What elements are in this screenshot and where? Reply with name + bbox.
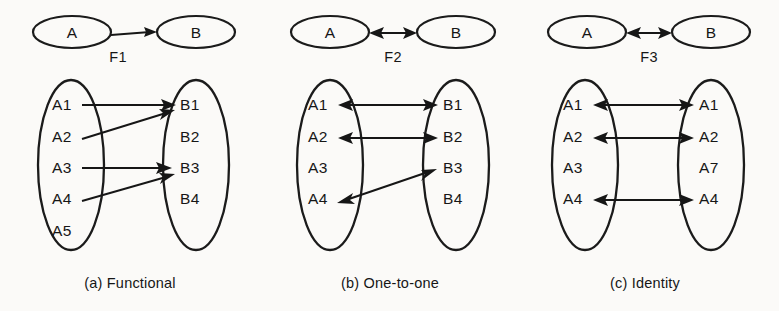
source-set-oval-label: A bbox=[582, 24, 593, 41]
source-element-a3: A3 bbox=[52, 159, 72, 176]
source-element-a1: A1 bbox=[52, 96, 72, 113]
function-label: F1 bbox=[109, 49, 127, 65]
target-element-b4: B4 bbox=[180, 190, 200, 207]
target-element-b3: B3 bbox=[180, 159, 200, 176]
target-element-b4: B4 bbox=[443, 190, 463, 207]
target-element-3: A7 bbox=[699, 159, 719, 176]
source-set-oval-label: A bbox=[325, 24, 336, 41]
target-element-b1: B1 bbox=[443, 96, 463, 113]
source-element-a4: A4 bbox=[308, 190, 328, 207]
source-element-a4: A4 bbox=[52, 190, 72, 207]
function-label: F3 bbox=[640, 49, 658, 65]
source-element-a4: A4 bbox=[563, 190, 583, 207]
target-set-oval-label: B bbox=[451, 24, 461, 41]
panel-caption: (a) Functional bbox=[84, 275, 175, 291]
target-element-b2: B2 bbox=[443, 128, 463, 145]
source-element-a1: A1 bbox=[563, 96, 583, 113]
target-element-b3: B3 bbox=[443, 159, 463, 176]
function-arrow-line bbox=[111, 32, 150, 35]
target-element-4: A4 bbox=[699, 190, 719, 207]
panel-functional: A B F1 A1 A2 A3 A4 A5 B1 B2 B3 B4 bbox=[0, 0, 260, 311]
function-label: F2 bbox=[384, 49, 402, 65]
target-set-oval-label: B bbox=[706, 24, 716, 41]
panel-one-to-one: A B F2 A1 A2 A3 A4 B1 B2 B3 B4 bbox=[260, 0, 520, 311]
target-element-2: A2 bbox=[699, 128, 719, 145]
source-element-a2: A2 bbox=[563, 128, 583, 145]
panel-identity: A B F3 A1 A2 A3 A4 A1 A2 A7 A4 bbox=[519, 0, 779, 311]
source-element-a3: A3 bbox=[308, 159, 328, 176]
panel-caption: (c) Identity bbox=[610, 275, 681, 291]
source-element-a5: A5 bbox=[52, 222, 72, 239]
source-element-a3: A3 bbox=[563, 159, 583, 176]
source-element-a1: A1 bbox=[308, 96, 328, 113]
target-element-1: A1 bbox=[699, 96, 719, 113]
source-element-a2: A2 bbox=[308, 128, 328, 145]
target-set-oval-label: B bbox=[191, 24, 201, 41]
source-set-oval-label: A bbox=[67, 24, 78, 41]
mapping-types-figure: A B F1 A1 A2 A3 A4 A5 B1 B2 B3 B4 bbox=[0, 0, 779, 311]
panel-caption: (b) One-to-one bbox=[341, 275, 439, 291]
target-element-b2: B2 bbox=[180, 128, 200, 145]
source-element-a2: A2 bbox=[52, 128, 72, 145]
target-element-b1: B1 bbox=[180, 96, 200, 113]
